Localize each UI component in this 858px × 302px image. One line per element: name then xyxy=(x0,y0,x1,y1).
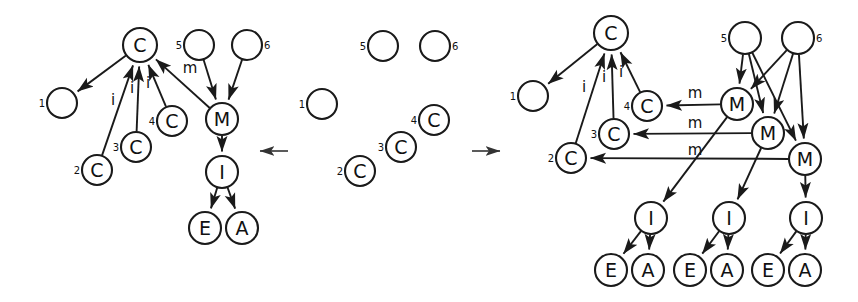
node-index-label: 3 xyxy=(591,129,597,140)
diagram-canvas: C1C2C3C456MIEA1C2C3C456C1C2C3C456MMMIIIE… xyxy=(0,0,858,302)
edge-R-6-to-R-M3 xyxy=(799,54,804,138)
node-R-5-empty[interactable]: 5 xyxy=(721,22,761,54)
edge-label-i: i xyxy=(582,78,586,96)
edge-L-C0-to-L-1 xyxy=(78,55,126,91)
edge-R-M1-to-R-4 xyxy=(666,104,720,105)
node-label: A xyxy=(799,259,812,281)
node-R-M3-M[interactable]: M xyxy=(789,143,821,175)
node-index-label: 5 xyxy=(360,41,366,52)
node-R-A1-A[interactable]: A xyxy=(632,254,664,286)
edge-label-m: m xyxy=(688,114,703,132)
edge-R-I3-to-R-E3 xyxy=(780,231,796,253)
node-label: I xyxy=(803,207,809,229)
edge-R-6-to-R-M1 xyxy=(751,50,787,89)
edge-R-M2-to-R-3 xyxy=(633,133,751,134)
node-label: E xyxy=(684,259,696,281)
edge-R-I1-to-R-E1 xyxy=(623,231,640,254)
node-label: E xyxy=(605,259,617,281)
node-circle xyxy=(729,22,761,54)
edge-label-m: m xyxy=(183,59,198,77)
node-label: C xyxy=(129,136,142,158)
node-label: C xyxy=(133,34,146,56)
node-R-6-empty[interactable]: 6 xyxy=(782,22,822,54)
node-M-4-C[interactable]: C4 xyxy=(411,105,449,135)
node-circle xyxy=(47,88,77,118)
node-index-label: 3 xyxy=(378,142,384,153)
edge-L-4-to-L-C0 xyxy=(148,65,166,107)
edge-L-I-to-L-A xyxy=(228,188,236,209)
node-label: I xyxy=(726,207,732,229)
nodes-layer: C1C2C3C456MIEA1C2C3C456C1C2C3C456MMMIIIE… xyxy=(39,16,823,286)
node-circle xyxy=(368,31,398,61)
node-R-1-empty[interactable]: 1 xyxy=(510,81,548,111)
node-R-E2-E[interactable]: E xyxy=(674,254,706,286)
node-label: M xyxy=(760,122,776,144)
node-R-M1-M[interactable]: M xyxy=(721,88,753,120)
edge-label-i: i xyxy=(111,91,115,109)
node-L-5-empty[interactable]: 5 xyxy=(176,30,214,60)
node-index-label: 3 xyxy=(113,142,119,153)
edge-label-i: i xyxy=(602,68,606,86)
node-L-3-C[interactable]: C3 xyxy=(113,132,151,162)
edge-R-I2-to-R-A2 xyxy=(728,234,729,249)
node-index-label: 2 xyxy=(548,153,554,164)
node-index-label: 4 xyxy=(411,115,417,126)
node-index-label: 4 xyxy=(624,101,630,112)
node-M-6-empty[interactable]: 6 xyxy=(420,31,458,61)
node-circle xyxy=(307,89,337,119)
edge-R-M2-to-R-I2 xyxy=(738,148,762,199)
node-label: M xyxy=(729,93,745,115)
node-L-2-C[interactable]: C2 xyxy=(74,155,112,185)
edge-R-3-to-R-C0 xyxy=(612,54,614,118)
node-label: C xyxy=(427,109,440,131)
node-R-A2-A[interactable]: A xyxy=(711,254,743,286)
node-label: M xyxy=(214,108,230,130)
node-R-2-C[interactable]: C2 xyxy=(548,143,586,173)
node-M-1-empty[interactable]: 1 xyxy=(299,89,337,119)
node-index-label: 5 xyxy=(721,33,727,44)
node-R-M2-M[interactable]: M xyxy=(752,117,784,149)
node-R-I1-I[interactable]: I xyxy=(635,202,667,234)
node-R-C0-C[interactable]: C xyxy=(594,16,628,50)
node-circle xyxy=(420,31,450,61)
node-label: I xyxy=(219,161,225,183)
node-R-I2-I[interactable]: I xyxy=(713,202,745,234)
edge-R-I2-to-R-E2 xyxy=(702,231,719,253)
node-index-label: 2 xyxy=(74,165,80,176)
node-R-E1-E[interactable]: E xyxy=(595,254,627,286)
node-label: A xyxy=(642,259,655,281)
node-L-I-I[interactable]: I xyxy=(206,156,238,188)
edge-L-5-to-L-M xyxy=(204,60,216,100)
edge-label-i: i xyxy=(130,79,134,97)
node-L-1-empty[interactable]: 1 xyxy=(39,88,77,118)
node-L-C0-C[interactable]: C xyxy=(123,28,157,62)
node-R-A3-A[interactable]: A xyxy=(789,254,821,286)
node-circle xyxy=(782,22,814,54)
node-label: C xyxy=(353,160,366,182)
node-R-E3-E[interactable]: E xyxy=(752,254,784,286)
edge-R-5-to-R-M1 xyxy=(739,54,743,83)
node-L-4-C[interactable]: C4 xyxy=(149,106,187,136)
node-R-3-C[interactable]: C3 xyxy=(591,119,629,149)
node-M-3-C[interactable]: C3 xyxy=(378,132,416,162)
node-label: C xyxy=(165,110,178,132)
node-L-A-A[interactable]: A xyxy=(226,212,258,244)
node-label: C xyxy=(564,147,577,169)
node-index-label: 1 xyxy=(510,91,516,102)
node-L-E-E[interactable]: E xyxy=(189,212,221,244)
node-R-I3-I[interactable]: I xyxy=(790,202,822,234)
edge-label-i: i xyxy=(619,63,623,81)
node-label: C xyxy=(394,136,407,158)
edge-L-3-to-L-C0 xyxy=(137,66,140,131)
node-L-6-empty[interactable]: 6 xyxy=(232,30,270,60)
node-R-4-C[interactable]: C4 xyxy=(624,91,662,121)
node-L-M-M[interactable]: M xyxy=(206,103,238,135)
node-M-5-empty[interactable]: 5 xyxy=(360,31,398,61)
edge-R-C0-to-R-1 xyxy=(548,44,597,84)
edge-R-I1-to-R-A1 xyxy=(649,234,650,249)
node-label: I xyxy=(648,207,654,229)
node-M-2-C[interactable]: C2 xyxy=(337,156,375,186)
edge-R-4-to-R-C0 xyxy=(621,52,641,92)
node-index-label: 6 xyxy=(264,40,270,51)
node-circle xyxy=(184,30,214,60)
